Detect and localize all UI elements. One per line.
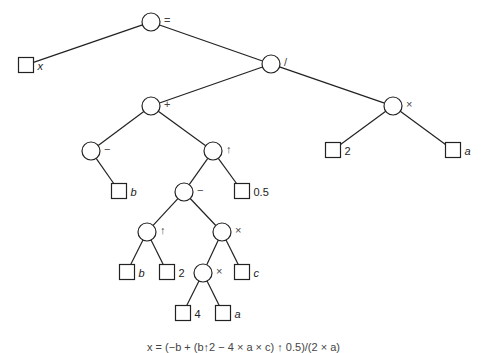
operand-node-half — [235, 184, 250, 199]
operand-node-two2 — [160, 265, 175, 280]
tree-edges — [34, 25, 446, 306]
operand-label-a2: a — [235, 308, 241, 320]
edge-div-plus — [159, 67, 262, 103]
edge-minus-pow2 — [153, 199, 178, 226]
operand-node-four — [176, 306, 191, 321]
operand-label-half: 0.5 — [254, 186, 269, 198]
operand-label-two2: 2 — [179, 267, 185, 279]
operand-label-four: 4 — [195, 308, 201, 320]
operator-label-mul3: × — [216, 265, 222, 277]
operator-label-pow1: ↑ — [226, 143, 232, 155]
operator-node-mulR — [384, 97, 402, 115]
operator-node-minus — [175, 183, 193, 201]
operator-node-plus — [142, 97, 160, 115]
operand-node-two1 — [326, 143, 341, 158]
operand-label-two1: 2 — [345, 145, 351, 157]
edge-mul3-four — [187, 281, 199, 305]
operator-label-minus: − — [197, 184, 203, 196]
operand-node-a2 — [216, 306, 231, 321]
expression-caption: x = (−b + (b↑2 − 4 × a × c) ↑ 0.5)/(2 × … — [0, 341, 487, 353]
operator-label-mul2: × — [235, 224, 241, 236]
edge-minus-mul2 — [190, 199, 216, 226]
operand-label-x: x — [38, 60, 44, 72]
edge-pow2-b2 — [131, 240, 143, 264]
edge-mulR-two1 — [341, 111, 386, 144]
operand-label-c: c — [254, 267, 260, 279]
operator-node-mul3 — [194, 264, 212, 282]
edge-mulR-a1 — [400, 111, 445, 144]
operand-label-b2: b — [139, 267, 145, 279]
operand-node-c — [235, 265, 250, 280]
operand-label-a1: a — [465, 145, 471, 157]
edge-pow1-minus — [189, 158, 208, 184]
edge-plus-pow1 — [158, 111, 205, 145]
edge-mul3-a2 — [207, 281, 219, 305]
operator-node-pow1 — [204, 142, 222, 160]
operator-node-eq — [142, 13, 160, 31]
operator-node-neg — [82, 142, 100, 160]
edge-pow1-half — [218, 158, 236, 183]
edge-plus-neg — [98, 111, 144, 145]
edge-eq-div — [159, 25, 262, 61]
operator-label-plus: + — [164, 98, 170, 110]
operand-label-b1: b — [131, 186, 137, 198]
operator-node-div — [262, 55, 280, 73]
edge-mul2-mul3 — [207, 240, 218, 265]
operator-label-div: / — [284, 56, 287, 68]
operator-label-neg: − — [104, 143, 110, 155]
operand-node-a1 — [446, 143, 461, 158]
operand-node-x — [19, 58, 34, 73]
edge-div-mulR — [280, 67, 385, 103]
operator-node-pow2 — [138, 223, 156, 241]
tree-nodes — [19, 13, 461, 321]
operand-node-b1 — [112, 184, 127, 199]
edge-pow2-two2 — [151, 240, 163, 264]
edge-eq-x — [34, 25, 143, 62]
operator-label-pow2: ↑ — [160, 224, 166, 236]
edge-mul2-c — [226, 240, 238, 264]
operand-node-b2 — [120, 265, 135, 280]
operator-label-mulR: × — [406, 98, 412, 110]
operator-node-mul2 — [213, 223, 231, 241]
edge-neg-b1 — [96, 158, 114, 183]
operator-label-eq: = — [164, 14, 170, 26]
